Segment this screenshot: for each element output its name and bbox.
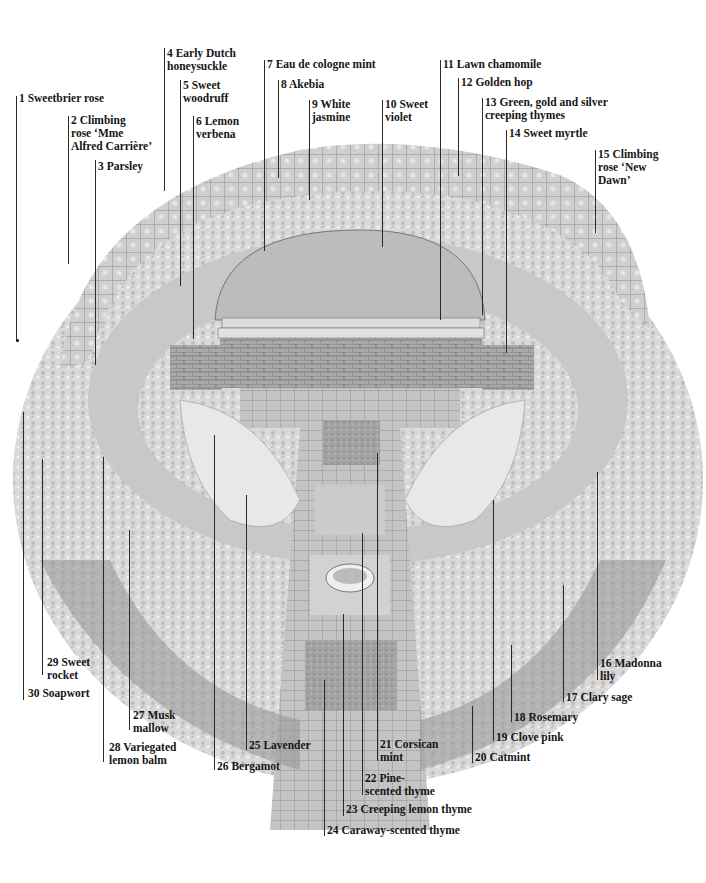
leader-line [193, 116, 194, 339]
label-climbing-rose-mme-alfred-carriere: 2 Climbing rose ‘Mme Alfred Carrière’ [71, 114, 152, 153]
leader-line [164, 48, 165, 191]
label-lavender: 25 Lavender [249, 739, 311, 752]
label-catmint: 20 Catmint [475, 751, 530, 764]
leader-line [362, 533, 363, 795]
leader-line [246, 495, 247, 750]
label-creeping-lemon-thyme: 23 Creeping lemon thyme [346, 803, 472, 816]
label-parsley: 3 Parsley [98, 160, 143, 173]
label-sweet-myrtle: 14 Sweet myrtle [509, 127, 588, 140]
label-golden-hop: 12 Golden hop [461, 76, 533, 89]
label-climbing-rose-new-dawn: 15 Climbing rose ‘New Dawn’ [598, 148, 658, 187]
leader-dot [16, 339, 19, 342]
label-sweet-violet: 10 Sweet violet [385, 98, 428, 124]
label-white-jasmine: 9 White jasmine [312, 98, 350, 124]
label-sweet-woodruff: 5 Sweet woodruff [183, 79, 228, 105]
label-variegated-lemon-balm: 28 Variegated lemon balm [109, 741, 176, 767]
leader-line [506, 130, 507, 353]
leader-line [23, 412, 24, 700]
label-corsican-mint: 21 Corsican mint [380, 738, 438, 764]
label-akebia: 8 Akebia [281, 78, 324, 91]
leader-line [95, 160, 96, 365]
label-clary-sage: 17 Clary sage [566, 691, 632, 704]
label-bergamot: 26 Bergamot [217, 760, 280, 773]
label-eau-de-cologne-mint: 7 Eau de cologne mint [267, 58, 376, 71]
leader-line [278, 80, 279, 178]
leader-line [264, 60, 265, 251]
leader-line [68, 116, 69, 264]
leader-line [214, 435, 215, 770]
label-early-dutch-honeysuckle: 4 Early Dutch honeysuckle [167, 47, 236, 73]
leader-line [377, 453, 378, 761]
leader-line [440, 60, 441, 320]
leader-line [597, 472, 598, 680]
leader-line [129, 530, 130, 730]
label-rosemary: 18 Rosemary [514, 711, 578, 724]
leader-line [309, 100, 310, 200]
leader-line [343, 614, 344, 816]
leader-line [493, 500, 494, 741]
leader-line [324, 680, 325, 836]
label-clove-pink: 19 Clove pink [496, 731, 564, 744]
leader-line [382, 100, 383, 247]
label-sweet-rocket: 29 Sweet rocket [47, 656, 90, 682]
leader-line [595, 150, 596, 233]
label-caraway-scented-thyme: 24 Caraway-scented thyme [327, 824, 460, 837]
leader-line [563, 585, 564, 702]
leader-line [103, 457, 104, 762]
label-pine-scented-thyme: 22 Pine- scented thyme [365, 772, 435, 798]
label-soapwort: 30 Soapwort [28, 687, 90, 700]
leader-line [16, 96, 17, 341]
leader-line [482, 98, 483, 315]
label-madonna-lily: 16 Madonna lily [600, 657, 662, 683]
leader-line [180, 80, 181, 286]
label-creeping-thymes: 13 Green, gold and silver creeping thyme… [485, 96, 608, 122]
label-musk-mallow: 27 Musk mallow [133, 709, 176, 735]
leader-line [511, 645, 512, 722]
label-lawn-chamomile: 11 Lawn chamomile [443, 58, 541, 71]
leader-line [458, 78, 459, 176]
leader-line [472, 706, 473, 763]
leader-line [42, 459, 43, 675]
label-sweetbrier-rose: 1 Sweetbrier rose [19, 92, 104, 105]
label-lemon-verbena: 6 Lemon verbena [196, 115, 239, 141]
